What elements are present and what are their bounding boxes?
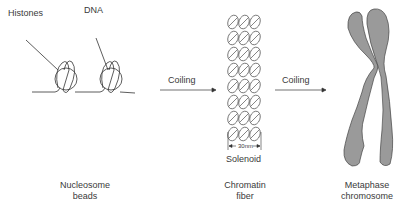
dna-packaging-diagram [0,0,408,210]
nucleosome-beads-drawing [26,38,135,93]
solenoid-fiber-drawing [226,14,262,150]
caption-line: Chromatin [215,180,275,191]
metaphase-chromosome-caption: Metaphase chromosome [334,180,400,202]
chromatin-fiber-caption: Chromatin fiber [215,180,275,202]
metaphase-chromosome-drawing [344,9,393,166]
nucleosome-beads-caption: Nucleosome beads [55,180,115,202]
histones-pointer [26,40,58,70]
solenoid-label: Solenoid [226,154,261,165]
caption-line: fiber [215,191,275,202]
width-30nm-label: 30nm [238,141,253,152]
coiling-arrow-2 [275,88,326,92]
caption-line: Nucleosome [55,180,115,191]
caption-line: Metaphase [334,180,400,191]
caption-line: chromosome [334,191,400,202]
coiling-arrow-1 [160,88,216,92]
dna-label: DNA [84,5,103,16]
caption-line: beads [55,191,115,202]
coiling-label-2: Coiling [282,75,310,86]
coiling-label-1: Coiling [168,75,196,86]
dna-pointer [96,38,108,70]
histones-label: Histones [8,8,43,19]
